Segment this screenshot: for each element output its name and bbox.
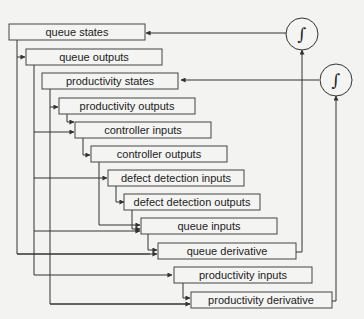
box-productivity-states: productivity states <box>42 73 178 89</box>
box-defect-detection-outputs: defect detection outputs <box>124 194 260 210</box>
box-queue-outputs: queue outputs <box>26 49 162 65</box>
svg-text:productivity outputs: productivity outputs <box>80 100 175 112</box>
box-queue-inputs: queue inputs <box>141 218 277 234</box>
svg-text:queue outputs: queue outputs <box>59 51 129 63</box>
svg-text:∫: ∫ <box>298 24 307 44</box>
svg-text:defect detection inputs: defect detection inputs <box>121 172 232 184</box>
svg-text:queue derivative: queue derivative <box>187 245 268 257</box>
svg-text:queue inputs: queue inputs <box>178 220 241 232</box>
box-queue-derivative: queue derivative <box>158 243 296 259</box>
box-productivity-inputs: productivity inputs <box>174 267 312 283</box>
box-controller-outputs: controller outputs <box>91 146 227 162</box>
svg-text:productivity states: productivity states <box>66 75 155 87</box>
integrator-icon: ∫ <box>286 18 318 50</box>
svg-text:controller outputs: controller outputs <box>117 148 202 160</box>
svg-text:productivity inputs: productivity inputs <box>199 269 288 281</box>
flow-diagram: queue states queue outputs productivity … <box>0 0 364 319</box>
svg-text:∫: ∫ <box>332 70 341 90</box>
box-controller-inputs: controller inputs <box>75 122 211 138</box>
svg-text:controller inputs: controller inputs <box>104 124 182 136</box>
svg-text:defect detection outputs: defect detection outputs <box>134 196 251 208</box>
box-defect-detection-inputs: defect detection inputs <box>108 170 244 186</box>
integrator-icon: ∫ <box>320 64 352 96</box>
svg-text:queue states: queue states <box>46 26 109 38</box>
box-queue-states: queue states <box>9 24 145 40</box>
box-productivity-derivative: productivity derivative <box>191 292 332 308</box>
box-productivity-outputs: productivity outputs <box>59 98 195 114</box>
svg-text:productivity derivative: productivity derivative <box>208 294 314 306</box>
